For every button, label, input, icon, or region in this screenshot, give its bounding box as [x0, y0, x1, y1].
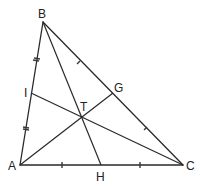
label-a: A: [8, 159, 16, 173]
tick-mark-bg: [77, 61, 80, 64]
label-c: C: [186, 159, 195, 173]
median-ci: [31, 93, 183, 165]
median-ag: [20, 93, 113, 165]
label-b: B: [38, 7, 46, 21]
label-g: G: [114, 81, 123, 95]
triangle-diagram: B A C H I G T: [0, 0, 200, 186]
median-bh: [43, 22, 101, 165]
label-i: I: [24, 86, 27, 100]
label-h: H: [96, 170, 105, 184]
label-t: T: [80, 100, 88, 114]
